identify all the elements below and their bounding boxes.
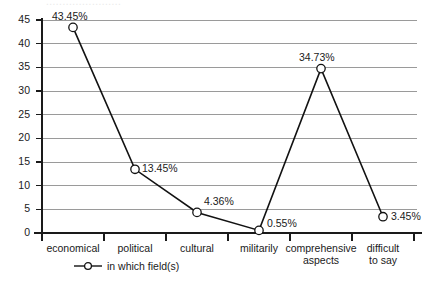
y-tick-label-35: 35 (4, 61, 30, 72)
data-label-political: 13.45% (142, 163, 178, 174)
y-tick-label-25: 25 (4, 109, 30, 120)
y-tick-label-0: 0 (4, 227, 30, 238)
data-point-cultural (193, 208, 201, 216)
y-tick-label-20: 20 (4, 132, 30, 143)
data-point-militarily (255, 226, 263, 234)
data-point-comprehensive-aspects (317, 64, 325, 72)
y-tick-label-30: 30 (4, 85, 30, 96)
legend-label-in-which-fields: in which field(s) (107, 260, 179, 272)
x-tick-label-difficult-to-say-line2: to say (345, 255, 421, 267)
data-label-economical: 43.45% (52, 11, 88, 22)
data-label-difficult-to-say: 3.45% (391, 211, 421, 222)
chart-legend: in which field(s) (74, 260, 179, 272)
data-point-political (131, 165, 139, 173)
line-chart: ....................... (0, 0, 440, 286)
data-label-militarily: 0.55% (267, 218, 297, 229)
y-axis-ticks (36, 20, 42, 233)
x-tick-label-difficult-to-say: difficult to say (345, 243, 421, 266)
x-tick-label-difficult-to-say-line1: difficult (345, 243, 421, 255)
y-tick-label-10: 10 (4, 180, 30, 191)
y-tick-label-15: 15 (4, 156, 30, 167)
data-label-cultural: 4.36% (204, 196, 234, 207)
y-tick-label-40: 40 (4, 38, 30, 49)
data-label-comprehensive-aspects: 34.73% (299, 52, 335, 63)
gridlines (42, 20, 417, 209)
data-point-difficult-to-say (379, 213, 387, 221)
data-point-economical (69, 23, 77, 31)
y-tick-label-45: 45 (4, 14, 30, 25)
y-tick-label-5: 5 (4, 203, 30, 214)
x-axis-ticks (42, 233, 414, 241)
legend-marker-icon (74, 260, 102, 272)
